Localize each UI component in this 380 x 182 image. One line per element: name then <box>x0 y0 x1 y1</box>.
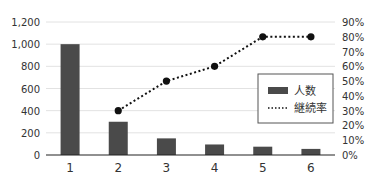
left-axis-tick: 600 <box>21 84 40 95</box>
left-axis-tick: 1,200 <box>11 17 40 28</box>
legend-label-rate: 継続率 <box>294 101 327 115</box>
right-axis-tick: 20% <box>342 120 364 131</box>
right-axis-tick: 80% <box>342 32 364 43</box>
left-axis-tick: 0 <box>34 150 40 161</box>
right-axis-tick: 10% <box>342 135 364 146</box>
bar[interactable] <box>61 44 80 155</box>
x-axis-tick: 1 <box>66 161 74 175</box>
bar[interactable] <box>109 122 128 155</box>
combo-chart: 02004006008001,0001,2000%10%20%30%40%50%… <box>0 0 380 182</box>
data-point[interactable] <box>259 33 266 40</box>
data-point[interactable] <box>115 107 122 114</box>
bar[interactable] <box>205 144 224 155</box>
right-axis-tick: 60% <box>342 61 364 72</box>
left-axis-tick: 1,000 <box>11 39 40 50</box>
right-axis-tick: 70% <box>342 47 364 58</box>
x-axis-tick: 4 <box>211 161 219 175</box>
right-axis-tick: 30% <box>342 106 364 117</box>
data-point[interactable] <box>211 63 218 70</box>
left-axis-tick: 800 <box>21 61 40 72</box>
legend-box <box>258 74 333 123</box>
x-axis-tick: 5 <box>259 161 267 175</box>
data-point[interactable] <box>163 78 170 85</box>
left-axis-tick: 200 <box>21 128 40 139</box>
right-axis-tick: 90% <box>342 17 364 28</box>
data-point[interactable] <box>307 33 314 40</box>
legend-bar-swatch <box>268 87 288 94</box>
x-axis-tick: 3 <box>163 161 171 175</box>
bar[interactable] <box>301 149 320 155</box>
bar[interactable] <box>253 147 272 155</box>
legend-label-count: 人数 <box>294 85 316 98</box>
right-axis-tick: 40% <box>342 91 364 102</box>
bar[interactable] <box>157 138 176 155</box>
chart-canvas: 02004006008001,0001,2000%10%20%30%40%50%… <box>0 0 380 182</box>
right-axis-tick: 50% <box>342 76 364 87</box>
x-axis-tick: 2 <box>114 161 122 175</box>
x-axis-tick: 6 <box>307 161 315 175</box>
left-axis-tick: 400 <box>21 106 40 117</box>
right-axis-tick: 0% <box>342 150 358 161</box>
